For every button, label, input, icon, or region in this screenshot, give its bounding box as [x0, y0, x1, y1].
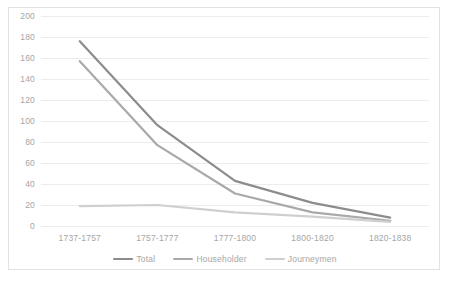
y-axis-tick-label: 140	[20, 74, 35, 84]
x-axis: 1737-17571757-17771777-18001800-18201820…	[41, 233, 429, 247]
x-axis-tick-label: 1820-1838	[369, 233, 411, 243]
legend-label: Total	[136, 254, 155, 264]
y-axis-tick-label: 120	[20, 95, 35, 105]
y-axis-tick-label: 80	[25, 137, 35, 147]
legend-item[interactable]: Householder	[173, 254, 246, 264]
legend-label: Journeymen	[288, 254, 337, 264]
x-axis-tick-label: 1777-1800	[214, 233, 256, 243]
chart-container: 020406080100120140160180200 1737-1757175…	[8, 7, 440, 270]
y-axis-tick-label: 40	[25, 179, 35, 189]
y-axis: 020406080100120140160180200	[9, 16, 35, 226]
series-line	[80, 205, 390, 222]
chart-legend: TotalHouseholderJourneymen	[9, 254, 441, 264]
legend-swatch-icon	[265, 258, 285, 260]
series-line	[80, 61, 390, 221]
y-axis-tick-label: 60	[25, 158, 35, 168]
legend-item[interactable]: Total	[113, 254, 155, 264]
y-axis-tick-label: 20	[25, 200, 35, 210]
x-axis-tick-label: 1800-1820	[291, 233, 333, 243]
legend-item[interactable]: Journeymen	[265, 254, 337, 264]
legend-swatch-icon	[173, 258, 193, 260]
y-axis-tick-label: 200	[20, 11, 35, 21]
series-line	[80, 41, 390, 217]
y-axis-tick-label: 0	[30, 221, 35, 231]
plot-area	[41, 16, 429, 226]
legend-swatch-icon	[113, 258, 133, 260]
x-axis-tick-label: 1737-1757	[59, 233, 101, 243]
x-axis-tick-label: 1757-1777	[136, 233, 178, 243]
y-axis-tick-label: 160	[20, 53, 35, 63]
gridline	[41, 226, 429, 227]
y-axis-tick-label: 100	[20, 116, 35, 126]
legend-label: Householder	[196, 254, 246, 264]
series-lines	[41, 16, 429, 226]
y-axis-tick-label: 180	[20, 32, 35, 42]
